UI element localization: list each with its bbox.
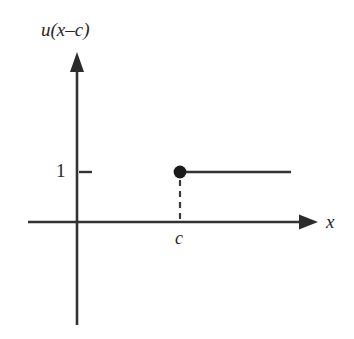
x-axis-label: x [326, 212, 334, 231]
figure-container: u(x–c) x 1 c [0, 0, 354, 339]
y-tick-label-one: 1 [56, 161, 66, 180]
x-tick-label-c: c [175, 229, 183, 247]
y-axis-label: u(x–c) [41, 20, 90, 39]
step-point-marker [174, 166, 187, 179]
step-function-plot [0, 0, 354, 339]
